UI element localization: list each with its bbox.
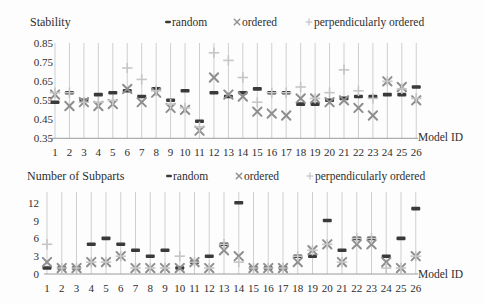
random-marker [87, 242, 96, 246]
random-marker [382, 254, 391, 258]
x-tick-label: 22 [353, 146, 364, 158]
x-tick-label: 16 [266, 146, 278, 158]
dash-shape [209, 91, 218, 95]
x-tick-label: 6 [125, 146, 131, 158]
x-tick-label: 25 [396, 282, 408, 294]
dash-shape [205, 254, 214, 258]
stability-chart: 0.850.750.650.550.450.351234567891011121… [34, 19, 423, 158]
dash-shape [161, 248, 170, 252]
dash-shape [397, 237, 406, 241]
x-tick-label: 14 [233, 282, 245, 294]
dash-shape [87, 242, 96, 246]
x-tick-label: 13 [223, 146, 235, 158]
dash-shape [338, 248, 347, 252]
ordered-marker [234, 19, 239, 24]
random-marker [383, 93, 392, 97]
perpendicular-marker [411, 93, 421, 103]
perpendicular-marker [281, 88, 291, 98]
dash-shape [165, 21, 171, 23]
x-tick-label: 5 [110, 146, 116, 158]
x-tick-label: 7 [139, 146, 145, 158]
x-tick-label: 25 [396, 146, 408, 158]
dash-shape [383, 93, 392, 97]
x-tick-label: 19 [310, 146, 322, 158]
series-random [43, 201, 421, 270]
x-tick-label: 9 [162, 282, 168, 294]
y-tick-label: 0.75 [34, 56, 54, 68]
y-tick-label: 0.55 [34, 94, 54, 106]
x-tick-label: 9 [168, 146, 174, 158]
x-tick-label: 23 [366, 282, 378, 294]
series-ordered [51, 73, 421, 135]
perpendicular-marker [267, 88, 277, 98]
x-tick-label: 2 [67, 146, 73, 158]
x-tick-label: 1 [44, 282, 50, 294]
x-tick-label: 7 [133, 282, 139, 294]
dash-shape [116, 242, 125, 246]
dash-shape [94, 93, 103, 97]
x-tick-label: 18 [295, 146, 307, 158]
random-marker [165, 21, 171, 23]
random-marker [166, 175, 172, 177]
perpendicular-marker [209, 48, 219, 58]
random-marker [253, 87, 262, 91]
x-tick-label: 8 [153, 146, 159, 158]
random-marker [161, 248, 170, 252]
x-tick-label: 4 [89, 282, 95, 294]
perpendicular-marker [339, 65, 349, 75]
dash-shape [234, 201, 243, 205]
x-tick-label: 18 [292, 282, 304, 294]
stability-legend-random: random [172, 16, 207, 29]
subparts-chart: 1296301234567891011121314151617181920212… [28, 173, 422, 294]
random-marker [397, 237, 406, 241]
random-marker [146, 254, 155, 258]
x-tick-label: 24 [382, 146, 394, 158]
figure-canvas: 0.850.750.650.550.450.351234567891011121… [0, 0, 484, 304]
x-tick-label: 11 [189, 282, 200, 294]
dash-shape [253, 87, 262, 91]
x-tick-label: 21 [339, 146, 350, 158]
random-marker [102, 237, 111, 241]
x-tick-label: 26 [411, 146, 423, 158]
perpendicular-marker [137, 74, 147, 84]
random-marker [205, 254, 214, 258]
subparts-legend-ordered: ordered [244, 170, 279, 183]
x-tick-label: 17 [281, 146, 293, 158]
perpendicular-marker [175, 251, 185, 261]
subparts-legend-perpendicular: perpendicularly ordered [315, 170, 425, 183]
random-marker [412, 85, 421, 89]
random-marker [51, 100, 60, 104]
x-tick-label: 3 [81, 146, 87, 158]
dash-shape [131, 248, 140, 252]
subparts-x-axis-label: Model ID [418, 268, 463, 281]
x-tick-label: 12 [208, 146, 219, 158]
series-perpendicularly-ordered [42, 233, 421, 273]
y-tick-label: 0.85 [34, 37, 54, 49]
perpendicular-marker [397, 84, 407, 94]
x-tick-label: 23 [367, 146, 379, 158]
stability-legend-perpendicular: perpendicularly ordered [314, 16, 424, 29]
dash-shape [108, 91, 117, 95]
dash-shape [411, 207, 420, 211]
x-tick-label: 15 [248, 282, 260, 294]
random-marker [323, 219, 332, 223]
ordered-marker [236, 173, 241, 178]
dash-shape [51, 100, 60, 104]
perpendicular-marker [353, 86, 363, 96]
subparts-legend-random: random [173, 170, 208, 183]
x-tick-label: 10 [180, 146, 192, 158]
random-marker [209, 91, 218, 95]
x-tick-label: 11 [194, 146, 205, 158]
y-tick-label: 0 [34, 268, 40, 280]
dash-shape [412, 85, 421, 89]
y-tick-label: 6 [34, 232, 40, 244]
stability-legend-ordered: ordered [242, 16, 277, 29]
x-tick-label: 19 [307, 282, 319, 294]
subparts-chart-title: Number of Subparts [27, 170, 124, 183]
perpendicular-marker [238, 72, 248, 82]
perpendicular-marker [306, 19, 313, 26]
dash-shape [43, 266, 52, 270]
dash-shape [146, 254, 155, 258]
dash-shape [181, 89, 190, 93]
perpendicular-marker [223, 55, 233, 65]
